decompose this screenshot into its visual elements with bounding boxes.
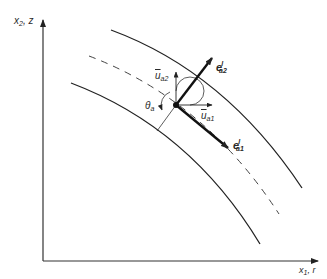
u-a1-label: ua1 — [201, 111, 214, 122]
x-axis-label: x1, r — [299, 266, 315, 276]
mean-dashed-curve — [89, 56, 279, 214]
theta-a-label: θa — [145, 101, 154, 112]
material-point — [173, 102, 179, 108]
e-a2-label: ela2 — [216, 60, 227, 74]
u-a2-label: ua2 — [155, 71, 168, 82]
inner-boundary-curve — [71, 83, 260, 244]
e-a1-label: ela1 — [233, 138, 244, 152]
diagram-svg — [0, 0, 327, 279]
theta-arrow-arc — [161, 92, 170, 110]
outer-boundary-curve — [111, 30, 302, 188]
normal-line — [157, 105, 176, 131]
diagram-canvas: x2, z x1, r ela2 ela1 ua2 ua1 θa — [0, 0, 327, 279]
y-axis-label: x2, z — [14, 16, 33, 27]
